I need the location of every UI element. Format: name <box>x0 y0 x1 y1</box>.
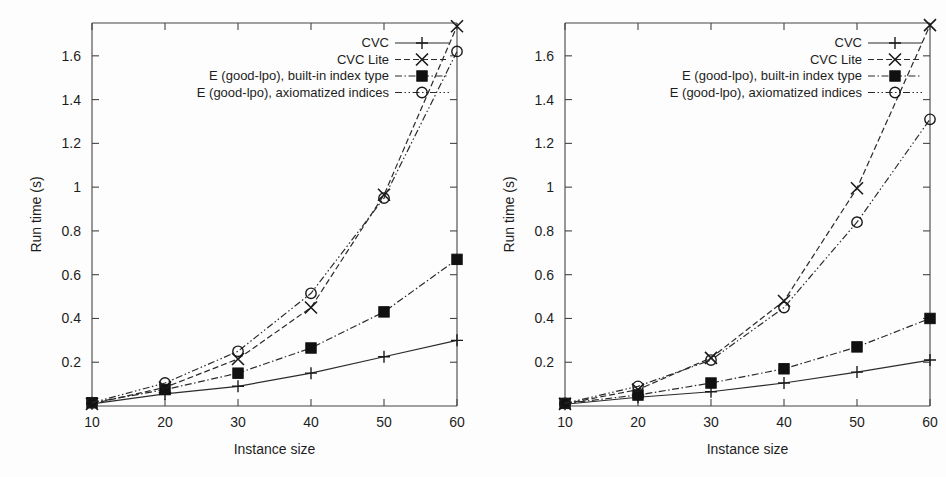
marker-plus <box>778 377 790 389</box>
legend: CVCCVC LiteE (good-lpo), built-in index … <box>197 35 449 100</box>
y-axis-title: Run time (s) <box>28 176 44 252</box>
x-tick-label: 50 <box>849 414 865 430</box>
y-tick-label: 0.2 <box>62 354 82 370</box>
chart-svg-left: 0.20.40.60.811.21.41.6102030405060Instan… <box>0 0 473 477</box>
marker-plus <box>416 37 428 49</box>
marker-cross <box>851 182 863 194</box>
x-tick-label: 60 <box>922 414 938 430</box>
x-tick-label: 50 <box>376 414 392 430</box>
chart-panel-left: 0.20.40.60.811.21.41.6102030405060Instan… <box>0 0 473 477</box>
marker-plus <box>232 380 244 392</box>
y-tick-label: 1.2 <box>535 135 555 151</box>
y-tick-label: 0.8 <box>62 223 82 239</box>
y-tick-label: 0.6 <box>62 267 82 283</box>
marker-filled-square <box>779 364 789 374</box>
marker-plus <box>924 354 936 366</box>
marker-plus <box>451 334 463 346</box>
y-tick-label: 0.4 <box>535 310 555 326</box>
x-tick-label: 10 <box>557 414 573 430</box>
y-tick-label: 1 <box>73 179 81 195</box>
series-2 <box>560 313 935 408</box>
x-tick-label: 30 <box>703 414 719 430</box>
marker-plus <box>305 367 317 379</box>
x-tick-label: 20 <box>157 414 173 430</box>
marker-filled-square <box>233 368 243 378</box>
y-tick-label: 1.6 <box>62 48 82 64</box>
x-tick-label: 60 <box>449 414 465 430</box>
series-3 <box>87 46 462 408</box>
series-line-3 <box>565 119 930 403</box>
series-2 <box>87 254 462 408</box>
x-tick-label: 40 <box>776 414 792 430</box>
marker-open-circle <box>233 346 243 356</box>
y-tick-label: 0.6 <box>535 267 555 283</box>
marker-filled-square <box>452 254 462 264</box>
x-tick-label: 10 <box>84 414 100 430</box>
series-0 <box>559 354 936 410</box>
legend-label-1: CVC Lite <box>810 52 862 67</box>
figure-container: 0.20.40.60.811.21.41.6102030405060Instan… <box>0 0 946 477</box>
legend-label-0: CVC <box>362 35 389 50</box>
legend: CVCCVC LiteE (good-lpo), built-in index … <box>670 35 922 100</box>
marker-plus <box>851 366 863 378</box>
series-3 <box>560 114 935 408</box>
y-tick-label: 1.6 <box>535 48 555 64</box>
marker-filled-square <box>417 71 427 81</box>
marker-filled-square <box>890 71 900 81</box>
y-tick-label: 1.2 <box>62 135 82 151</box>
legend-label-3: E (good-lpo), axiomatized indices <box>670 85 863 100</box>
y-tick-label: 0.8 <box>535 223 555 239</box>
y-tick-label: 0.2 <box>535 354 555 370</box>
series-line-3 <box>92 51 457 402</box>
x-axis-title: Instance size <box>707 441 789 457</box>
chart-svg-right: 0.20.40.60.811.21.41.6102030405060Instan… <box>473 0 946 477</box>
marker-cross <box>305 302 317 314</box>
marker-filled-square <box>925 313 935 323</box>
series-line-2 <box>92 259 457 402</box>
series-line-0 <box>92 340 457 403</box>
chart-panel-right: 0.20.40.60.811.21.41.6102030405060Instan… <box>473 0 946 477</box>
x-tick-label: 30 <box>230 414 246 430</box>
legend-label-2: E (good-lpo), built-in index type <box>209 68 389 83</box>
legend-label-3: E (good-lpo), axiomatized indices <box>197 85 390 100</box>
marker-filled-square <box>379 307 389 317</box>
legend-label-2: E (good-lpo), built-in index type <box>682 68 862 83</box>
x-axis-title: Instance size <box>234 441 316 457</box>
marker-filled-square <box>706 378 716 388</box>
y-tick-label: 1 <box>546 179 554 195</box>
x-tick-label: 20 <box>630 414 646 430</box>
y-tick-label: 1.4 <box>62 92 82 108</box>
marker-plus <box>889 37 901 49</box>
legend-label-0: CVC <box>835 35 862 50</box>
y-tick-label: 1.4 <box>535 92 555 108</box>
legend-label-1: CVC Lite <box>337 52 389 67</box>
marker-filled-square <box>852 342 862 352</box>
y-tick-label: 0.4 <box>62 310 82 326</box>
series-0 <box>86 334 463 409</box>
marker-plus <box>378 351 390 363</box>
y-axis-title: Run time (s) <box>501 176 517 252</box>
marker-filled-square <box>306 343 316 353</box>
x-tick-label: 40 <box>303 414 319 430</box>
